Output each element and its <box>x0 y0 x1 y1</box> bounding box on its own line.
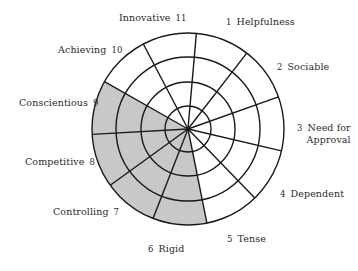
segment-name-line1: Need for <box>308 122 351 133</box>
segment-number: 7 <box>114 207 120 217</box>
wheel-hub <box>186 127 190 131</box>
segment-name: Controlling <box>53 206 109 217</box>
segment-number: 8 <box>90 157 96 167</box>
segment-name-line2: Approval <box>297 134 351 145</box>
segment-name: Competitive <box>25 156 85 167</box>
segment-number: 2 <box>277 62 283 72</box>
segment-name: Conscientious <box>19 97 88 108</box>
label-rigid: 6Rigid <box>148 243 184 255</box>
label-controlling: Controlling7 <box>53 206 119 218</box>
segment-name: Helpfulness <box>237 16 295 27</box>
segment-number: 4 <box>280 189 286 199</box>
segment-name: Dependent <box>291 188 345 199</box>
segment-name: Tense <box>238 233 266 244</box>
segment-number: 1 <box>226 17 232 27</box>
label-sociable: 2Sociable <box>277 61 329 73</box>
label-conscientious: Conscientious9 <box>19 97 98 109</box>
label-innovative: Innovative11 <box>119 12 187 24</box>
segment-name: Rigid <box>159 243 185 254</box>
label-tense: 5Tense <box>227 233 266 245</box>
segment-name: Innovative <box>119 12 171 23</box>
segment-number: 3 <box>297 123 303 133</box>
segment-number: 10 <box>111 45 122 55</box>
segment-name: Achieving <box>58 44 106 55</box>
segment-number: 9 <box>93 98 99 108</box>
label-achieving: Achieving10 <box>58 44 123 56</box>
segment-number: 5 <box>227 234 233 244</box>
segment-name: Sociable <box>288 61 330 72</box>
label-need-for-approval: 3Need for Approval <box>297 122 351 145</box>
label-line-1: 3Need for <box>297 122 351 134</box>
segment-number: 6 <box>148 244 154 254</box>
segment-number: 11 <box>176 13 187 23</box>
label-dependent: 4Dependent <box>280 188 344 200</box>
label-helpfulness: 1Helpfulness <box>226 16 295 28</box>
label-competitive: Competitive8 <box>25 156 95 168</box>
